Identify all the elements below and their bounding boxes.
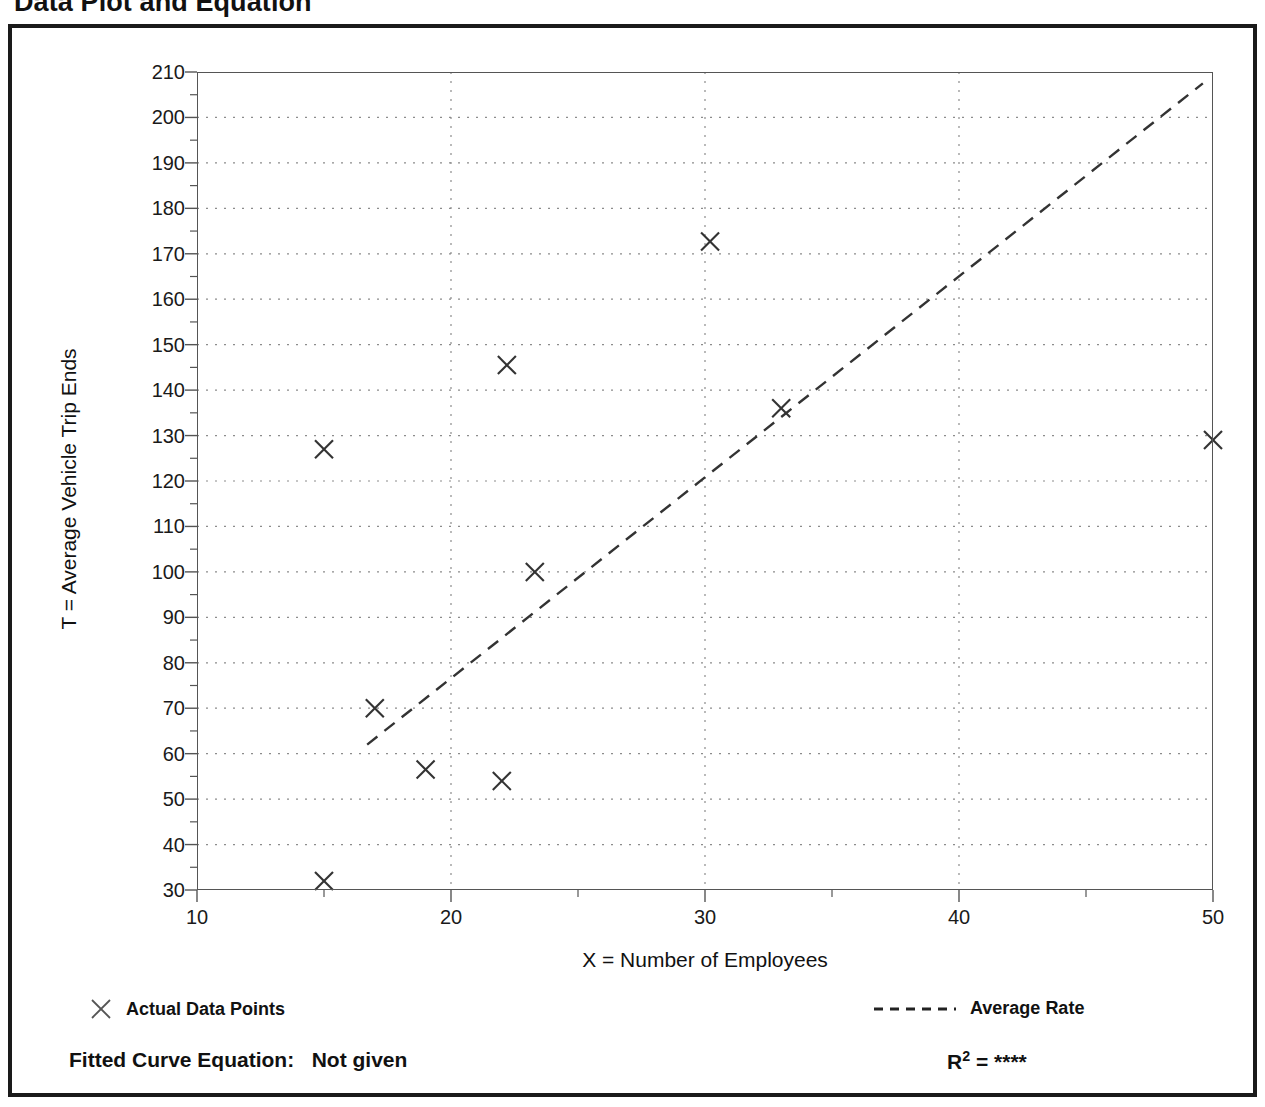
chart-footer: Fitted Curve Equation: Not given R2 = **… [12,1048,1253,1092]
chart-legend: Actual Data Points Average Rate [12,998,1253,1038]
y-tick-label: 130 [152,424,185,447]
y-axis-title: T = Average Vehicle Trip Ends [57,189,81,789]
fitted-curve-label: Fitted Curve Equation: [69,1048,294,1071]
r-squared-label: R [947,1050,962,1073]
page-title: Data Plot and Equation [14,0,312,18]
fitted-curve-value: Not given [312,1048,408,1071]
chart-panel: 3040506070809010011012013014015016017018… [8,24,1257,1097]
dashed-line-icon [874,1007,956,1011]
legend-label-average-rate: Average Rate [970,998,1084,1019]
y-axis-line [197,72,198,890]
fitted-curve-equation: Fitted Curve Equation: Not given [69,1048,407,1072]
x-marker-icon [90,998,112,1020]
y-tick-label: 60 [163,742,185,765]
data-point-marker [493,772,511,790]
data-point-marker [315,440,333,458]
data-point-marker [526,563,544,581]
y-tick-label: 110 [153,515,185,538]
x-tick-label: 20 [440,906,462,929]
legend-label-actual-data-points: Actual Data Points [126,999,285,1020]
y-tick-label: 180 [152,197,185,220]
plot-frame-right [1212,72,1213,890]
r-squared-stars: **** [994,1050,1027,1073]
plot-frame-top [197,72,1213,73]
data-point-marker [1204,431,1222,449]
y-axis-tick-labels: 3040506070809010011012013014015016017018… [112,72,185,890]
y-tick-label: 50 [163,788,185,811]
x-axis-tick-labels: 1020304050 [197,906,1213,934]
y-tick-label: 40 [163,833,185,856]
y-tick-label: 160 [152,288,185,311]
y-tick-label: 210 [152,61,185,84]
y-tick-label: 70 [163,697,185,720]
y-tick-label: 150 [152,333,185,356]
x-tick-label: 30 [694,906,716,929]
y-tick-label: 120 [152,470,185,493]
y-tick-label: 30 [163,879,185,902]
y-tick-label: 200 [152,106,185,129]
x-axis-line [197,889,1213,890]
x-tick-label: 10 [186,906,208,929]
legend-item-actual-data-points: Actual Data Points [90,998,285,1020]
data-point-marker [701,233,719,251]
r-squared-value: R2 = **** [947,1048,1027,1074]
r-squared-equals: = [976,1050,988,1073]
y-tick-label: 170 [152,242,185,265]
data-point-marker [417,761,435,779]
data-point-markers [197,72,1213,890]
data-point-marker [772,399,790,417]
y-tick-label: 90 [163,606,185,629]
y-tick-label: 140 [152,379,185,402]
plot-area [197,72,1213,890]
data-point-marker [498,356,516,374]
x-tick-label: 40 [948,906,970,929]
y-tick-label: 100 [152,560,185,583]
data-point-marker [315,872,333,890]
x-axis-title: X = Number of Employees [197,948,1213,972]
data-point-marker [366,699,384,717]
y-tick-label: 80 [163,651,185,674]
x-tick-label: 50 [1202,906,1224,929]
legend-item-average-rate: Average Rate [874,998,1084,1019]
r-squared-exponent: 2 [962,1048,970,1064]
y-tick-label: 190 [152,151,185,174]
